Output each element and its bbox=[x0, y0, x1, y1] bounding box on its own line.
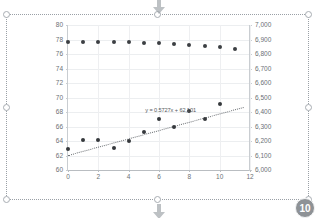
gridline-vertical bbox=[129, 25, 130, 170]
y-axis-tick-mark bbox=[66, 25, 68, 26]
gridline-vertical bbox=[250, 25, 251, 170]
gridline-vertical bbox=[159, 25, 160, 170]
x-axis-tick-mark bbox=[189, 170, 190, 172]
secondary-y-axis-tick-label: 6,600 bbox=[255, 80, 271, 87]
data-point-marker[interactable] bbox=[172, 42, 176, 46]
data-point-marker[interactable] bbox=[172, 125, 176, 129]
gridline-vertical bbox=[98, 25, 99, 170]
data-point-marker[interactable] bbox=[233, 47, 237, 51]
x-axis-tick-mark bbox=[68, 170, 69, 172]
data-point-marker[interactable] bbox=[218, 102, 222, 106]
secondary-y-axis-tick-label: 6,700 bbox=[255, 65, 271, 72]
x-axis-tick-label: 0 bbox=[66, 174, 70, 181]
data-point-marker[interactable] bbox=[203, 44, 207, 48]
y-axis-tick-label: 66 bbox=[56, 123, 63, 130]
arrow-down-icon bbox=[152, 0, 166, 15]
x-axis-tick-mark bbox=[159, 170, 160, 172]
data-point-marker[interactable] bbox=[157, 117, 161, 121]
data-point-marker[interactable] bbox=[218, 45, 222, 49]
secondary-y-axis-tick-label: 6,400 bbox=[255, 109, 271, 116]
secondary-y-axis-tick-label: 6,300 bbox=[255, 123, 271, 130]
secondary-y-axis-tick-label: 7,000 bbox=[255, 22, 271, 29]
y-axis-tick-mark bbox=[66, 69, 68, 70]
resize-handle-top-right[interactable] bbox=[305, 11, 312, 18]
chart-plot-frame: 606,000626,100646,200666,300686,400706,5… bbox=[7, 15, 308, 199]
data-point-marker[interactable] bbox=[81, 138, 85, 142]
status-badge[interactable]: 10 bbox=[295, 198, 315, 218]
data-point-marker[interactable] bbox=[157, 41, 161, 45]
y-axis-tick-mark bbox=[66, 98, 68, 99]
data-point-marker[interactable] bbox=[66, 40, 70, 44]
data-point-marker[interactable] bbox=[127, 139, 131, 143]
y-axis-tick-label: 78 bbox=[56, 36, 63, 43]
data-point-marker[interactable] bbox=[187, 43, 191, 47]
y-axis-tick-label: 74 bbox=[56, 65, 63, 72]
data-point-marker[interactable] bbox=[81, 40, 85, 44]
secondary-y-axis-tick-label: 6,500 bbox=[255, 94, 271, 101]
y-axis-tick-mark bbox=[66, 83, 68, 84]
trendline-equation-label[interactable]: y = 0.5727x + 62,101 bbox=[145, 108, 196, 114]
data-point-marker[interactable] bbox=[96, 138, 100, 142]
y-axis-tick-label: 62 bbox=[56, 152, 63, 159]
x-axis-tick-label: 4 bbox=[127, 174, 131, 181]
y-axis-tick-label: 76 bbox=[56, 51, 63, 58]
trendline[interactable] bbox=[68, 107, 244, 156]
y-axis-tick-label: 64 bbox=[56, 138, 63, 145]
y-axis-tick-mark bbox=[66, 127, 68, 128]
data-point-marker[interactable] bbox=[66, 147, 70, 151]
y-axis-tick-mark bbox=[66, 112, 68, 113]
y-axis-tick-label: 72 bbox=[56, 80, 63, 87]
secondary-y-axis-tick-label: 6,900 bbox=[255, 36, 271, 43]
data-point-marker[interactable] bbox=[112, 40, 116, 44]
plot-area[interactable]: 606,000626,100646,200666,300686,400706,5… bbox=[67, 25, 250, 171]
y-axis-tick-label: 80 bbox=[56, 22, 63, 29]
x-axis-tick-label: 10 bbox=[216, 174, 223, 181]
arrow-down-icon bbox=[152, 204, 166, 218]
data-point-marker[interactable] bbox=[112, 146, 116, 150]
secondary-y-axis-tick-label: 6,100 bbox=[255, 152, 271, 159]
x-axis-tick-label: 12 bbox=[246, 174, 253, 181]
secondary-y-axis-tick-label: 6,000 bbox=[255, 167, 271, 174]
x-axis-tick-label: 2 bbox=[97, 174, 101, 181]
y-axis-tick-mark bbox=[66, 54, 68, 55]
data-point-marker[interactable] bbox=[142, 130, 146, 134]
resize-handle-top-left[interactable] bbox=[3, 11, 10, 18]
y-axis-tick-label: 70 bbox=[56, 94, 63, 101]
data-point-marker[interactable] bbox=[203, 117, 207, 121]
gridline-vertical bbox=[189, 25, 190, 170]
secondary-y-axis-tick-label: 6,200 bbox=[255, 138, 271, 145]
x-axis-tick-mark bbox=[220, 170, 221, 172]
data-point-marker[interactable] bbox=[142, 41, 146, 45]
resize-handle-bottom-left[interactable] bbox=[3, 196, 10, 203]
data-point-marker[interactable] bbox=[127, 40, 131, 44]
secondary-axis-line bbox=[249, 25, 250, 171]
x-axis-tick-mark bbox=[98, 170, 99, 172]
embedded-chart-object[interactable]: 606,000626,100646,200666,300686,400706,5… bbox=[6, 14, 309, 200]
resize-handle-middle-right[interactable] bbox=[305, 104, 312, 111]
resize-handle-bottom-center[interactable] bbox=[154, 196, 161, 203]
y-axis-tick-label: 60 bbox=[56, 167, 63, 174]
resize-handle-middle-left[interactable] bbox=[3, 104, 10, 111]
x-axis-tick-mark bbox=[250, 170, 251, 172]
y-axis-tick-mark bbox=[66, 141, 68, 142]
secondary-y-axis-tick-label: 6,800 bbox=[255, 51, 271, 58]
data-point-marker[interactable] bbox=[96, 40, 100, 44]
x-axis-tick-label: 6 bbox=[157, 174, 161, 181]
x-axis-tick-label: 8 bbox=[188, 174, 192, 181]
x-axis-tick-mark bbox=[129, 170, 130, 172]
y-axis-tick-label: 68 bbox=[56, 109, 63, 116]
